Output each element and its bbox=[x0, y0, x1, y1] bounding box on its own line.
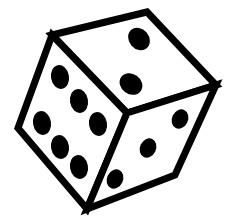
die-illustration bbox=[0, 0, 238, 224]
die-icon bbox=[0, 0, 238, 224]
